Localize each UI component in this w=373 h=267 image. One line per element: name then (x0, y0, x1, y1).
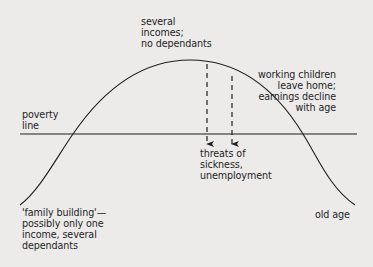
old-age-label: old age (315, 209, 350, 220)
poverty-line-label: poverty line (22, 109, 58, 131)
life-cycle-poverty-diagram: several incomes; no dependants working c… (0, 0, 373, 267)
family-building-label: 'family building'— possibly only one inc… (22, 207, 106, 251)
peak-label: several incomes; no dependants (141, 16, 212, 49)
decline-label: working children leave home; earnings de… (258, 69, 336, 113)
threats-label: threats of sickness, unemployment (200, 148, 272, 181)
